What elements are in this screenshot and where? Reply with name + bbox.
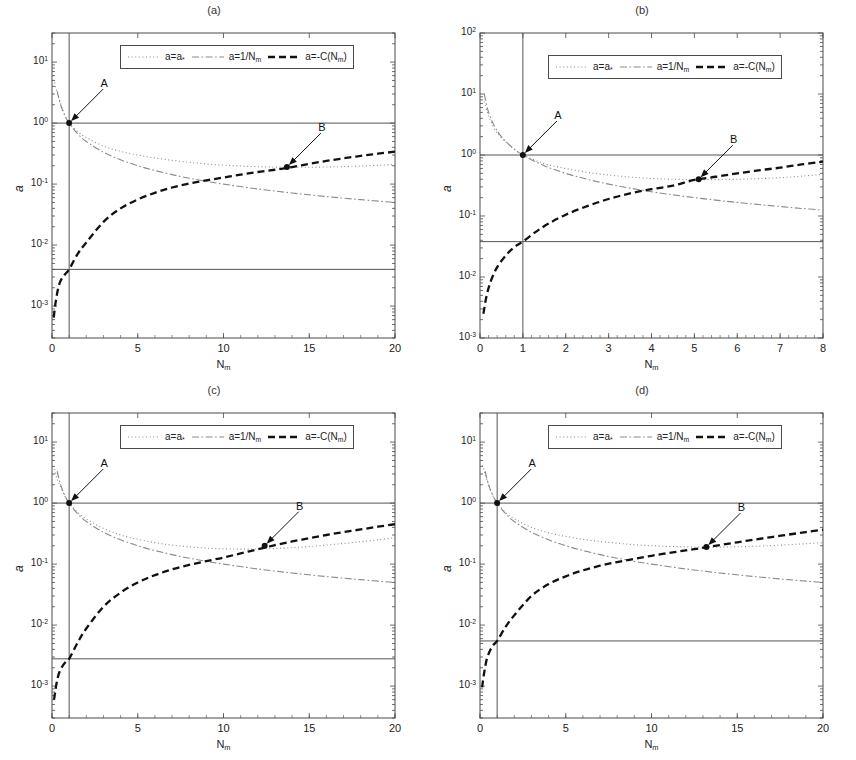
y-tick-label: 100 xyxy=(434,148,476,159)
legend-label-minus-c: a=-C(Nm) xyxy=(733,431,775,443)
legend-swatch-minus-c xyxy=(267,52,301,62)
x-tick-label: 5 xyxy=(124,722,152,734)
x-tick-label: 20 xyxy=(381,342,409,354)
legend-label-a-star: a=a* xyxy=(165,431,185,443)
y-tick-label: 10-3 xyxy=(6,299,48,310)
legend-entry-inv-nm: a=1/Nm xyxy=(619,431,690,443)
legend-entry-inv-nm: a=1/Nm xyxy=(191,51,262,63)
annotation-label-B: B xyxy=(738,501,745,513)
legend-swatch-a-star xyxy=(127,432,161,442)
legend-label-inv-nm: a=1/Nm xyxy=(657,61,690,73)
legend-entry-minus-c: a=-C(Nm) xyxy=(267,51,347,63)
annotation-label-A: A xyxy=(100,77,108,89)
y-tick-label: 10-2 xyxy=(434,270,476,281)
legend-swatch-minus-c xyxy=(267,432,301,442)
annotation-label-B: B xyxy=(296,500,303,512)
legend-label-minus-c: a=-C(Nm) xyxy=(305,51,347,63)
x-axis-label: Nm xyxy=(204,738,244,752)
legend-swatch-a-star xyxy=(127,52,161,62)
x-tick-label: 0 xyxy=(466,722,494,734)
x-axis-label: Nm xyxy=(204,358,244,372)
panel-a: (a)AB10110010-110-210-305101520aNma=a*a=… xyxy=(0,0,428,380)
legend-swatch-inv-nm xyxy=(191,52,225,62)
y-tick-label: 101 xyxy=(434,435,476,446)
y-tick-label: 10-2 xyxy=(6,618,48,629)
annotation-label-A: A xyxy=(528,457,536,469)
legend-entry-a-star: a=a* xyxy=(127,431,185,443)
y-tick-label: 10-2 xyxy=(434,618,476,629)
legend-label-minus-c: a=-C(Nm) xyxy=(733,61,775,73)
figure-root: (a)AB10110010-110-210-305101520aNma=a*a=… xyxy=(0,0,856,760)
legend-entry-inv-nm: a=1/Nm xyxy=(619,61,690,73)
legend: a=a*a=1/Nma=-C(Nm) xyxy=(120,425,354,449)
x-tick-label: 3 xyxy=(595,342,623,354)
y-axis-label: a xyxy=(12,565,26,572)
legend-label-a-star: a=a* xyxy=(593,61,613,73)
x-tick-label: 5 xyxy=(552,722,580,734)
annotation-label-A: A xyxy=(100,457,108,469)
x-tick-label: 4 xyxy=(638,342,666,354)
x-tick-label: 10 xyxy=(210,722,238,734)
x-tick-label: 2 xyxy=(552,342,580,354)
legend-label-inv-nm: a=1/Nm xyxy=(229,431,262,443)
legend-entry-minus-c: a=-C(Nm) xyxy=(267,431,347,443)
x-tick-label: 15 xyxy=(295,342,323,354)
legend-swatch-minus-c xyxy=(695,62,729,72)
legend-swatch-inv-nm xyxy=(619,432,653,442)
x-tick-label: 5 xyxy=(124,342,152,354)
y-tick-label: 10-2 xyxy=(6,238,48,249)
annotation-label-B: B xyxy=(318,121,325,133)
legend-swatch-a-star xyxy=(555,432,589,442)
y-tick-label: 10-3 xyxy=(434,679,476,690)
legend-label-inv-nm: a=1/Nm xyxy=(229,51,262,63)
y-tick-label: 100 xyxy=(6,496,48,507)
legend-label-minus-c: a=-C(Nm) xyxy=(305,431,347,443)
x-tick-label: 15 xyxy=(295,722,323,734)
x-axis-label: Nm xyxy=(632,738,672,752)
legend-entry-a-star: a=a* xyxy=(555,61,613,73)
legend-label-inv-nm: a=1/Nm xyxy=(657,431,690,443)
y-tick-label: 10-1 xyxy=(434,209,476,220)
x-tick-label: 6 xyxy=(723,342,751,354)
legend-entry-a-star: a=a* xyxy=(555,431,613,443)
legend-entry-minus-c: a=-C(Nm) xyxy=(695,431,775,443)
legend: a=a*a=1/Nma=-C(Nm) xyxy=(548,425,782,449)
panel-c: (c)AB10110010-110-210-305101520aNma=a*a=… xyxy=(0,380,428,760)
x-axis-label: Nm xyxy=(632,358,672,372)
legend-swatch-a-star xyxy=(555,62,589,72)
y-tick-label: 10-3 xyxy=(6,679,48,690)
panel-b: (b)AB10210110010-110-210-3012345678aNma=… xyxy=(428,0,856,380)
x-tick-label: 0 xyxy=(38,722,66,734)
y-tick-label: 10-3 xyxy=(434,331,476,342)
y-axis-label: a xyxy=(12,185,26,192)
legend-label-a-star: a=a* xyxy=(593,431,613,443)
x-tick-label: 8 xyxy=(809,342,837,354)
legend-label-a-star: a=a* xyxy=(165,51,185,63)
y-tick-label: 100 xyxy=(6,116,48,127)
x-tick-label: 10 xyxy=(638,722,666,734)
x-tick-label: 7 xyxy=(766,342,794,354)
legend-swatch-inv-nm xyxy=(619,62,653,72)
y-tick-label: 100 xyxy=(434,496,476,507)
panel-d: (d)AB10110010-110-210-305101520aNma=a*a=… xyxy=(428,380,856,760)
annotation-label-A: A xyxy=(554,109,562,121)
y-tick-label: 101 xyxy=(6,55,48,66)
y-axis-label: a xyxy=(440,185,454,192)
x-tick-label: 0 xyxy=(38,342,66,354)
legend-swatch-inv-nm xyxy=(191,432,225,442)
x-tick-label: 5 xyxy=(680,342,708,354)
y-axis-label: a xyxy=(440,565,454,572)
x-tick-label: 10 xyxy=(210,342,238,354)
annotation-label-B: B xyxy=(730,133,737,145)
x-tick-label: 0 xyxy=(466,342,494,354)
legend-swatch-minus-c xyxy=(695,432,729,442)
legend: a=a*a=1/Nma=-C(Nm) xyxy=(548,55,782,79)
y-tick-label: 101 xyxy=(434,87,476,98)
x-tick-label: 20 xyxy=(809,722,837,734)
legend-entry-a-star: a=a* xyxy=(127,51,185,63)
x-tick-label: 15 xyxy=(723,722,751,734)
x-tick-label: 1 xyxy=(509,342,537,354)
y-tick-label: 102 xyxy=(434,26,476,37)
legend: a=a*a=1/Nma=-C(Nm) xyxy=(120,45,354,69)
legend-entry-inv-nm: a=1/Nm xyxy=(191,431,262,443)
